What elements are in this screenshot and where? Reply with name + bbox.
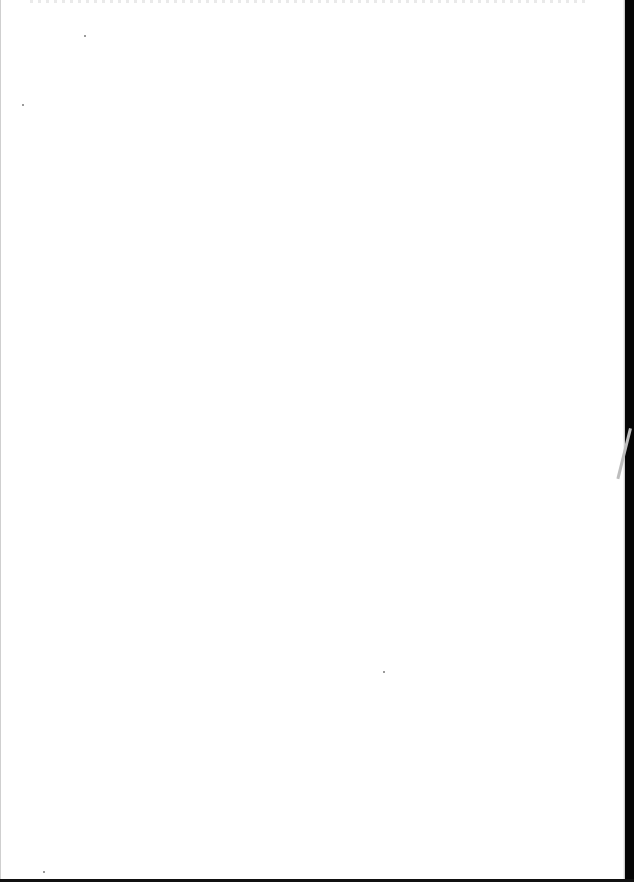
scan-speck (43, 871, 45, 873)
blank-page (0, 0, 625, 879)
scan-speck (84, 35, 86, 37)
scan-top-noise (30, 0, 590, 3)
page-left-edge (0, 0, 1, 882)
scan-speck (383, 671, 385, 673)
scan-speck (22, 104, 24, 106)
